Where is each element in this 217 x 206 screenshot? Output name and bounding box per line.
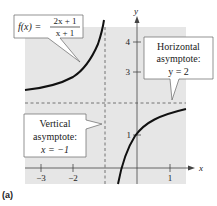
function-denominator: x + 1 bbox=[56, 28, 75, 38]
vertical-asymptote-label-line1: Vertical bbox=[39, 118, 70, 129]
vertical-asymptote-label-line2: asymptote: bbox=[33, 131, 77, 142]
y-tick-label: 1 bbox=[127, 130, 132, 140]
horizontal-asymptote-label-line1: Horizontal bbox=[157, 41, 200, 52]
horizontal-asymptote-label-line2: asymptote: bbox=[157, 53, 201, 64]
vertical-asymptote-label-line3: x = −1 bbox=[40, 144, 69, 155]
x-axis-label: x bbox=[198, 163, 203, 173]
y-axis-label: y bbox=[133, 6, 138, 16]
horizontal-asymptote-label-line3: y = 2 bbox=[168, 66, 189, 77]
rational-function-graph: −3 −2 1 4 3 1 x y f(x) = 2x + 1 x + 1 Ho… bbox=[0, 0, 217, 206]
x-tick-label: −2 bbox=[68, 173, 78, 183]
x-tick-label: 1 bbox=[168, 173, 173, 183]
x-tick-label: −3 bbox=[36, 173, 46, 183]
y-axis-arrow-icon bbox=[135, 16, 140, 23]
function-numerator: 2x + 1 bbox=[53, 16, 76, 26]
function-lhs: f(x) = bbox=[18, 21, 41, 33]
y-tick-label: 4 bbox=[126, 37, 131, 47]
x-axis-arrow-icon bbox=[188, 166, 195, 171]
y-tick-label: 3 bbox=[126, 67, 131, 77]
figure-caption: (a) bbox=[2, 190, 13, 200]
